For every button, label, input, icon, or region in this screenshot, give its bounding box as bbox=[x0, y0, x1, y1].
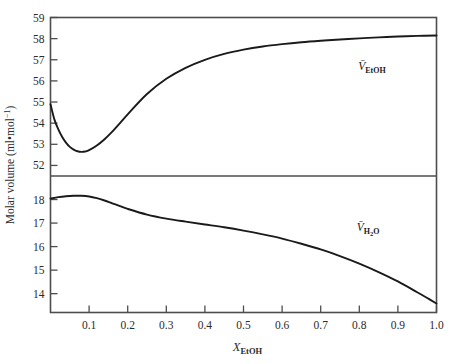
y-tick-label-lower: 18 bbox=[33, 194, 45, 206]
x-tick-label: 0.3 bbox=[159, 319, 174, 331]
molar-volume-chart: 5253545556575859 1415161718 0.10.20.30.4… bbox=[0, 0, 461, 364]
y-tick-label-upper: 53 bbox=[33, 138, 45, 150]
x-axis-ticks bbox=[89, 306, 436, 313]
x-tick-label: 0.2 bbox=[121, 319, 136, 331]
curve-etoh bbox=[51, 35, 437, 151]
y-tick-label-upper: 56 bbox=[33, 75, 45, 87]
y-tick-label-upper: 59 bbox=[33, 12, 45, 24]
y-title-superscript: −1 bbox=[3, 110, 12, 119]
series-annotation-h2o: V̄H2O bbox=[357, 221, 380, 237]
x-tick-label: 1.0 bbox=[429, 319, 444, 331]
y-axis-tick-labels-lower: 1415161718 bbox=[33, 194, 45, 300]
x-tick-label: 0.6 bbox=[275, 319, 290, 331]
y-title-text: Molar volume (ml•mol bbox=[4, 118, 17, 224]
y-tick-label-upper: 55 bbox=[33, 96, 45, 108]
data-curves bbox=[51, 35, 437, 303]
x-tick-label: 0.5 bbox=[236, 319, 251, 331]
x-tick-label: 0.8 bbox=[352, 319, 367, 331]
y-tick-label-upper: 58 bbox=[33, 33, 45, 45]
axes-frame bbox=[51, 18, 437, 313]
x-tick-label: 0.7 bbox=[314, 319, 329, 331]
y-tick-label-lower: 16 bbox=[33, 241, 45, 253]
y-tick-label-lower: 15 bbox=[33, 264, 45, 276]
y-title-tail: ) bbox=[4, 106, 17, 110]
y-tick-label-upper: 52 bbox=[33, 159, 45, 171]
series-annotation-etoh: V̄EtOH bbox=[358, 60, 386, 75]
y-tick-label-upper: 54 bbox=[33, 117, 45, 129]
x-title-subscript: EtOH bbox=[240, 346, 262, 356]
y-axis-title: Molar volume (ml•mol−1) bbox=[3, 106, 17, 225]
y-tick-label-lower: 17 bbox=[33, 217, 45, 229]
y-axis-ticks-upper bbox=[51, 18, 58, 166]
x-axis-tick-labels: 0.10.20.30.40.50.60.70.80.91.0 bbox=[82, 319, 444, 331]
curve-h2o bbox=[51, 196, 437, 304]
annot-subscript: O bbox=[373, 227, 379, 236]
y-axis-tick-labels-upper: 5253545556575859 bbox=[33, 12, 45, 172]
y-tick-label-upper: 57 bbox=[33, 54, 45, 66]
chart-figure: 5253545556575859 1415161718 0.10.20.30.4… bbox=[0, 0, 461, 364]
annot-subscript: EtOH bbox=[365, 66, 386, 75]
y-axis-ticks-lower bbox=[51, 200, 58, 294]
x-tick-label: 0.1 bbox=[82, 319, 97, 331]
x-tick-label: 0.9 bbox=[391, 319, 406, 331]
x-tick-label: 0.4 bbox=[198, 319, 213, 331]
plot-frame bbox=[51, 18, 437, 313]
x-axis-title: XEtOH bbox=[232, 340, 263, 357]
y-tick-label-lower: 14 bbox=[33, 288, 45, 300]
